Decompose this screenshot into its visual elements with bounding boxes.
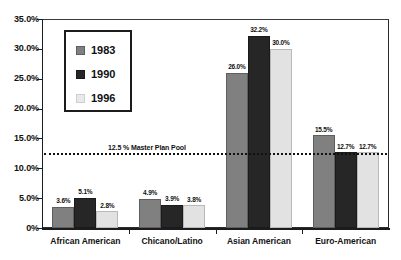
legend-swatch-icon-1996 <box>76 94 85 103</box>
bar-1996-euro-american <box>357 152 379 228</box>
y-axis-tick-text: 25.0% <box>14 73 39 83</box>
y-axis-tick-label: 25.0% <box>0 73 39 84</box>
legend-label-1990: 1990 <box>91 68 115 80</box>
y-axis-tick-label: 5.0% <box>0 193 39 204</box>
bar-1990-euro-american <box>335 152 357 228</box>
y-axis-tick-label: 10.0% <box>0 163 39 174</box>
y-axis-tick-text: 5.0% <box>19 193 39 203</box>
y-axis-tick-text: 15.0% <box>14 133 39 143</box>
bar-1990-asian-american <box>248 36 270 228</box>
bar-value-label: 5.1% <box>69 188 101 195</box>
master-plan-pool-line <box>44 153 387 155</box>
bar-1996-asian-american <box>270 49 292 228</box>
y-axis-tick-mark <box>37 168 42 169</box>
y-axis-tick-mark <box>37 109 42 110</box>
y-axis-tick-mark <box>37 19 42 20</box>
bar-value-label: 30.0% <box>265 39 297 46</box>
y-axis-tick-text: 20.0% <box>14 103 39 113</box>
bar-value-label: 12.7% <box>352 143 384 150</box>
bar-value-label: 3.8% <box>178 196 210 203</box>
x-axis-category-label: Asian American <box>216 236 303 246</box>
bar-chart: 0%5.0%10.0%15.0%20.0%25.0%30.0%35.0% 3.6… <box>0 0 401 260</box>
legend-swatch-icon-1990 <box>76 70 85 79</box>
bar-1996-chicano-latino <box>183 205 205 228</box>
legend-item-1996: 1996 <box>66 86 130 110</box>
legend-label-1996: 1996 <box>91 92 115 104</box>
y-axis-tick-mark <box>37 198 42 199</box>
y-axis-tick-text: 10.0% <box>14 163 39 173</box>
y-axis-tick-mark <box>37 138 42 139</box>
bar-1983-african-american <box>52 207 74 228</box>
legend-item-1990: 1990 <box>66 62 130 86</box>
bar-1983-chicano-latino <box>139 199 161 228</box>
legend: 1983 1990 1996 <box>64 30 132 112</box>
y-axis-tick-mark <box>37 49 42 50</box>
y-axis-tick-label: 35.0% <box>0 14 39 25</box>
master-plan-pool-label: 12.5 % Master Plan Pool <box>108 144 186 151</box>
y-axis-tick-label: 15.0% <box>0 133 39 144</box>
bar-value-label: 15.5% <box>308 126 340 133</box>
legend-label-1983: 1983 <box>91 44 115 56</box>
y-axis <box>42 19 43 229</box>
x-axis-tick-mark <box>216 229 217 234</box>
bar-value-label: 32.2% <box>243 26 275 33</box>
x-axis-tick-mark <box>302 229 303 234</box>
y-axis-tick-label: 30.0% <box>0 43 39 54</box>
y-axis-tick-label: 0% <box>0 223 39 234</box>
bar-value-label: 2.8% <box>91 202 123 209</box>
bar-1996-african-american <box>96 211 118 228</box>
legend-swatch-icon-1983 <box>76 46 85 55</box>
legend-item-1983: 1983 <box>66 38 130 62</box>
x-axis-category-label: Chicano/Latino <box>129 236 216 246</box>
y-axis-tick-text: 30.0% <box>14 43 39 53</box>
bar-1990-chicano-latino <box>161 205 183 228</box>
x-axis-category-label: Euro-American <box>302 236 389 246</box>
y-axis-tick-label: 20.0% <box>0 103 39 114</box>
x-axis-tick-mark <box>129 229 130 234</box>
x-axis-category-label: African American <box>42 236 129 246</box>
bar-1983-asian-american <box>226 73 248 228</box>
y-axis-tick-text: 35.0% <box>14 14 39 24</box>
y-axis-tick-mark <box>37 79 42 80</box>
